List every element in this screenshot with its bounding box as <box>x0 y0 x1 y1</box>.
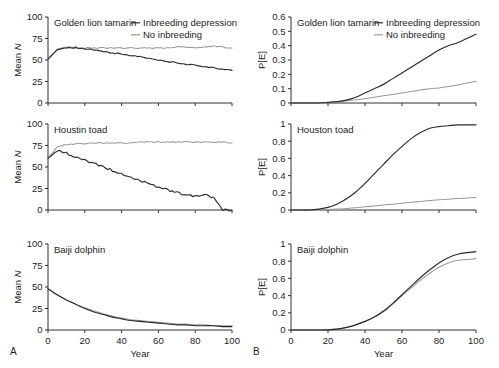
legend-label-no-inbreeding: No inbreeding <box>386 29 445 40</box>
legend: Inbreeding depressionNo inbreeding <box>131 17 237 40</box>
axis-lines <box>48 17 232 103</box>
x-tick-label: 80 <box>434 335 445 346</box>
x-axis-title: Year <box>130 348 149 359</box>
figure-root: 0255075100Golden lion tamarinMean NInbre… <box>0 0 499 368</box>
x-tick-label: 0 <box>288 335 293 346</box>
y-tick-label: 0.4 <box>272 170 285 181</box>
y-tick-label: 0 <box>280 97 285 108</box>
panel-letter-b: B <box>253 346 260 357</box>
x-tick-label: 40 <box>360 335 371 346</box>
x-tick-label: 80 <box>190 335 201 346</box>
curve-inbreeding-depression <box>48 150 232 211</box>
y-tick-label: 50 <box>32 281 43 292</box>
y-axis-title: Mean N <box>12 43 23 76</box>
y-tick-label: 0.2 <box>272 69 285 80</box>
panel-A-middle: 0255075100Houstin toadMean N <box>12 118 232 215</box>
curve-no-inbreeding <box>291 259 476 330</box>
y-tick-label: 100 <box>27 118 43 129</box>
axis-lines <box>48 124 232 210</box>
y-axis-title: Mean N <box>12 270 23 303</box>
y-tick-label: 0.2 <box>272 187 285 198</box>
legend-label-inbreeding-depression: Inbreeding depression <box>143 17 237 28</box>
y-tick-label: 25 <box>32 303 43 314</box>
y-tick-label: 50 <box>32 54 43 65</box>
panel-A-bottom: 0255075100020406080100Baiji dolphinMean … <box>12 238 240 359</box>
legend-label-no-inbreeding: No inbreeding <box>143 29 202 40</box>
y-tick-label: 75 <box>32 260 43 271</box>
y-tick-label: 100 <box>27 11 43 22</box>
axis-lines <box>48 244 232 330</box>
axis-lines <box>291 17 476 103</box>
axis-lines <box>291 124 476 210</box>
axis-lines <box>291 244 476 330</box>
y-tick-label: 1 <box>280 118 285 129</box>
y-axis-title: P[E] <box>256 278 267 296</box>
curve-inbreeding-depression <box>48 289 232 327</box>
panel-B-bottom: 00.20.40.60.81020406080100Baiji dolphinP… <box>256 238 484 359</box>
y-tick-label: 25 <box>32 76 43 87</box>
x-tick-label: 0 <box>45 335 50 346</box>
x-tick-label: 20 <box>323 335 334 346</box>
legend: Inbreeding depressionNo inbreeding <box>374 17 480 40</box>
y-tick-label: 0 <box>280 324 285 335</box>
x-axis-title: Year <box>374 348 393 359</box>
y-tick-label: 0.4 <box>272 290 285 301</box>
y-tick-label: 50 <box>32 161 43 172</box>
panel-title: Golden lion tamarin <box>54 17 136 28</box>
y-tick-label: 1 <box>280 238 285 249</box>
y-tick-label: 0 <box>37 324 42 335</box>
curve-inbreeding-depression <box>291 252 476 330</box>
y-tick-label: 0.6 <box>272 273 285 284</box>
y-tick-label: 0.1 <box>272 83 285 94</box>
y-tick-label: 0.3 <box>272 54 285 65</box>
curve-no-inbreeding <box>48 289 232 326</box>
y-tick-label: 0 <box>280 204 285 215</box>
figure-svg: 0255075100Golden lion tamarinMean NInbre… <box>0 0 499 368</box>
legend-label-inbreeding-depression: Inbreeding depression <box>386 17 480 28</box>
panel-title: Baiji dolphin <box>297 244 348 255</box>
x-tick-label: 100 <box>224 335 240 346</box>
curve-no-inbreeding <box>291 198 476 210</box>
x-tick-label: 100 <box>468 335 484 346</box>
y-tick-label: 75 <box>32 33 43 44</box>
y-tick-label: 75 <box>32 140 43 151</box>
y-tick-label: 0.6 <box>272 11 285 22</box>
y-tick-label: 0.5 <box>272 26 285 37</box>
y-axis-title: Mean N <box>12 150 23 183</box>
curve-inbreeding-depression <box>48 48 232 71</box>
x-tick-label: 60 <box>397 335 408 346</box>
y-tick-label: 0 <box>37 97 42 108</box>
x-tick-label: 20 <box>80 335 91 346</box>
y-tick-label: 0.6 <box>272 153 285 164</box>
y-tick-label: 0.2 <box>272 307 285 318</box>
y-tick-label: 100 <box>27 238 43 249</box>
panel-title: Houston toad <box>297 124 354 135</box>
x-tick-label: 40 <box>116 335 127 346</box>
curve-no-inbreeding <box>48 142 232 159</box>
panel-A-top: 0255075100Golden lion tamarinMean NInbre… <box>12 11 237 108</box>
panel-B-top: 00.10.20.30.40.50.6Golden lion tamarinP[… <box>256 11 480 108</box>
y-tick-label: 25 <box>32 183 43 194</box>
curve-inbreeding-depression <box>291 34 476 103</box>
panel-letter-a: A <box>10 346 17 357</box>
y-tick-label: 0.8 <box>272 136 285 147</box>
panel-title: Houstin toad <box>54 124 107 135</box>
y-tick-label: 0.8 <box>272 256 285 267</box>
y-tick-label: 0 <box>37 204 42 215</box>
panel-title: Baiji dolphin <box>54 244 105 255</box>
panel-title: Golden lion tamarin <box>297 17 379 28</box>
y-tick-label: 0.4 <box>272 40 285 51</box>
x-tick-label: 60 <box>153 335 164 346</box>
panel-B-middle: 00.20.40.60.81Houston toadP[E] <box>256 118 476 215</box>
curve-inbreeding-depression <box>291 125 476 210</box>
y-axis-title: P[E] <box>256 51 267 69</box>
y-axis-title: P[E] <box>256 158 267 176</box>
